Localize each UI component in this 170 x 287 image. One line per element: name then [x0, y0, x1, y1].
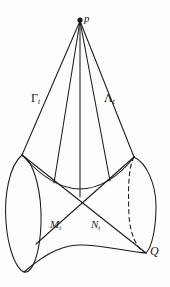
label-n-t-sub: t	[98, 224, 100, 231]
hyperboloid-diagram: p Γt Λt Mt Nt Q	[0, 0, 170, 287]
right-cap-ellipse-front	[134, 157, 156, 253]
ruling-line-lambda-t	[80, 21, 134, 157]
diagram-canvas	[0, 0, 170, 287]
label-q-base: Q	[150, 244, 159, 258]
label-lambda-t-base: Λ	[104, 91, 113, 105]
label-q: Q	[150, 245, 159, 259]
label-apex-p-base: p	[84, 12, 90, 24]
left-cap-ellipse	[6, 155, 42, 272]
apex-point-marker	[77, 17, 82, 22]
label-apex-p: p	[84, 13, 90, 26]
label-lambda-t-sub: t	[113, 97, 115, 106]
bottom-rim-curve	[24, 245, 146, 272]
label-gamma-t-base: Γ	[31, 91, 38, 105]
label-gamma-t: Γt	[31, 92, 40, 106]
ruling-line-inner-left	[54, 21, 80, 183]
label-m-t-sub: t	[59, 224, 61, 231]
label-gamma-t-sub: t	[38, 97, 40, 106]
label-lambda-t: Λt	[104, 92, 115, 106]
ruling-line-gamma-t	[22, 21, 80, 155]
label-n-t: Nt	[91, 219, 100, 232]
label-m-t: Mt	[50, 219, 61, 232]
label-m-t-base: M	[50, 218, 59, 230]
right-cap-ellipse-back	[129, 157, 146, 253]
